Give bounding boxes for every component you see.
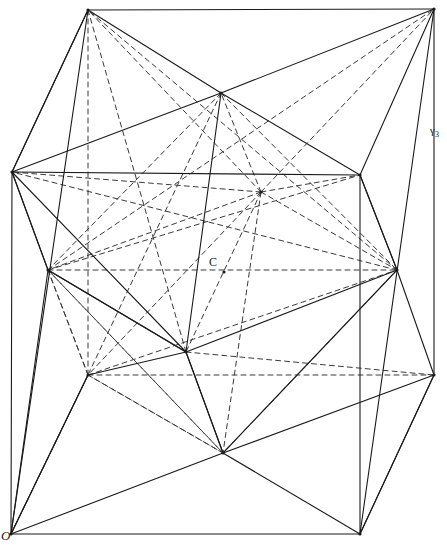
visible-edge-31 bbox=[88, 352, 186, 375]
center-label: C bbox=[209, 255, 217, 270]
gamma-subscript: 3 bbox=[435, 130, 439, 139]
vertex-dots-group bbox=[9, 7, 435, 535]
visible-edge-14 bbox=[11, 453, 223, 534]
hidden-edge-14 bbox=[88, 192, 261, 375]
vertex-mid-back bbox=[259, 190, 262, 193]
vertex-top-front-left bbox=[10, 170, 13, 173]
visible-edge-5 bbox=[11, 172, 12, 534]
visible-edge-32 bbox=[223, 375, 434, 453]
gamma3-label: γ3 bbox=[430, 124, 439, 139]
hidden-edge-4 bbox=[48, 270, 88, 375]
hidden-edge-7 bbox=[12, 172, 261, 192]
visible-edge-22 bbox=[186, 270, 397, 352]
hidden-edge-13 bbox=[221, 93, 261, 192]
vertex-center-C bbox=[222, 270, 225, 273]
visible-edge-11 bbox=[221, 93, 360, 175]
vertex-mid-front bbox=[184, 350, 187, 353]
vertex-top-back-left bbox=[86, 8, 89, 11]
visible-edge-25 bbox=[186, 352, 223, 453]
hidden-edge-27 bbox=[186, 352, 434, 375]
hidden-edge-10 bbox=[261, 192, 397, 270]
visible-edge-15 bbox=[223, 453, 360, 534]
visible-edge-21 bbox=[48, 270, 186, 352]
vertex-bottom-back-left bbox=[86, 373, 89, 376]
origin-label: O bbox=[1, 528, 10, 544]
hidden-edge-9 bbox=[48, 192, 261, 270]
visible-edge-24 bbox=[397, 270, 434, 375]
visible-edge-26 bbox=[223, 270, 397, 453]
hidden-edge-22 bbox=[88, 270, 397, 375]
vertex-mid-right bbox=[395, 268, 398, 271]
visible-edge-34 bbox=[360, 175, 397, 270]
visible-edge-3 bbox=[88, 9, 434, 10]
vertex-bottom-back-right bbox=[432, 373, 435, 376]
visible-edge-33 bbox=[12, 172, 48, 270]
hidden-edge-6 bbox=[261, 9, 434, 192]
vertex-top-front-right bbox=[358, 173, 361, 176]
geometric-figure-canvas: O C γ3 bbox=[0, 0, 447, 552]
hidden-edge-16 bbox=[221, 93, 397, 270]
vertex-mid-bottom bbox=[221, 451, 224, 454]
vertex-top-back-right bbox=[432, 7, 435, 10]
vertex-bottom-front-right bbox=[358, 532, 361, 535]
hidden-edge-25 bbox=[88, 10, 397, 270]
vertex-mid-top bbox=[219, 91, 222, 94]
vertex-mid-left bbox=[46, 268, 49, 271]
figure-svg bbox=[0, 0, 447, 552]
